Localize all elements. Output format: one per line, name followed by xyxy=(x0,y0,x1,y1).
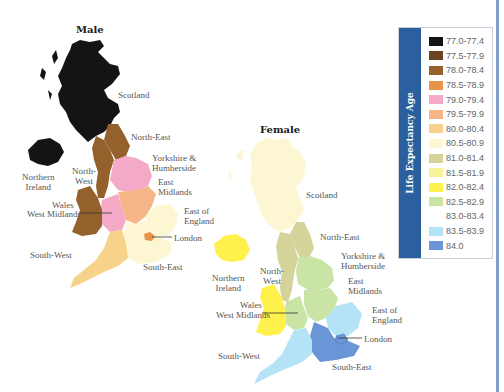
legend-item: 81.0-81.4 xyxy=(429,151,484,166)
legend-label: 83.5-83.9 xyxy=(446,226,484,236)
legend-item: 79.5-79.9 xyxy=(429,107,484,122)
female-label-east-of-england: East of England xyxy=(372,305,402,325)
legend-label: 77.5-77.9 xyxy=(446,51,484,61)
legend-label: 80.0-80.4 xyxy=(446,124,484,134)
female-label-west-midlands: West Midlands xyxy=(216,310,270,320)
legend-swatch xyxy=(429,197,443,206)
legend-label: 82.5-82.9 xyxy=(446,197,484,207)
legend-label: 77.0-77.4 xyxy=(446,36,484,46)
legend-swatch xyxy=(429,241,443,250)
female-label-south-east: South-East xyxy=(332,362,372,372)
legend-title-bar: Life Expectancy Age xyxy=(399,28,421,258)
female-label-scotland: Scotland xyxy=(306,190,338,200)
legend-swatch xyxy=(429,51,443,60)
legend-item: 84.0 xyxy=(429,238,484,253)
legend-label: 81.5-81.9 xyxy=(446,168,484,178)
female-region-yorkshire[interactable] xyxy=(296,256,334,290)
female-label-wales: Wales xyxy=(240,300,262,310)
legend-label: 79.0-79.4 xyxy=(446,95,484,105)
legend-item: 77.0-77.4 xyxy=(429,34,484,49)
legend-swatch xyxy=(429,110,443,119)
page-edge-rule xyxy=(496,0,499,392)
legend-item: 79.0-79.4 xyxy=(429,92,484,107)
legend-item: 83.0-83.4 xyxy=(429,209,484,224)
legend-swatch xyxy=(429,139,443,148)
female-label-london: London xyxy=(364,334,392,344)
legend-item: 83.5-83.9 xyxy=(429,224,484,239)
female-label-yorkshire: Yorkshire & Humberside xyxy=(341,251,385,271)
legend-item: 82.0-82.4 xyxy=(429,180,484,195)
legend-swatch xyxy=(429,227,443,236)
legend-swatch xyxy=(429,124,443,133)
female-label-north-east: North-East xyxy=(320,232,360,242)
legend-swatch xyxy=(429,95,443,104)
legend-item: 80.0-80.4 xyxy=(429,122,484,137)
legend-item: 82.5-82.9 xyxy=(429,195,484,210)
legend-label: 78.5-78.9 xyxy=(446,80,484,90)
legend-item: 81.5-81.9 xyxy=(429,165,484,180)
legend-label: 81.0-81.4 xyxy=(446,153,484,163)
legend-swatch xyxy=(429,81,443,90)
female-label-east-midlands: East Midlands xyxy=(348,276,382,296)
legend-label: 83.0-83.4 xyxy=(446,211,484,221)
legend-swatch xyxy=(429,183,443,192)
legend-item: 78.0-78.4 xyxy=(429,63,484,78)
legend-swatch xyxy=(429,154,443,163)
female-region-south-west[interactable] xyxy=(254,328,312,384)
legend-swatch xyxy=(429,168,443,177)
legend-title: Life Expectancy Age xyxy=(405,92,415,194)
legend-label: 79.5-79.9 xyxy=(446,109,484,119)
female-label-south-west: South-West xyxy=(218,351,260,361)
female-label-north-west: North- West xyxy=(260,266,284,286)
legend-label: 78.0-78.4 xyxy=(446,65,484,75)
legend-swatch xyxy=(429,37,443,46)
legend-item: 77.5-77.9 xyxy=(429,49,484,64)
legend-label: 82.0-82.4 xyxy=(446,182,484,192)
female-label-northern-ireland: Northern Ireland xyxy=(212,273,245,293)
legend: Life Expectancy Age 77.0-77.477.5-77.978… xyxy=(398,27,493,259)
legend-item: 78.5-78.9 xyxy=(429,78,484,93)
legend-swatch xyxy=(429,66,443,75)
legend-swatch xyxy=(429,212,443,221)
legend-label: 80.5-80.9 xyxy=(446,138,484,148)
legend-item: 80.5-80.9 xyxy=(429,136,484,151)
legend-items: 77.0-77.477.5-77.978.0-78.478.5-78.979.0… xyxy=(429,34,484,253)
female-region-scotland[interactable] xyxy=(228,138,306,232)
female-region-northern-ireland[interactable] xyxy=(214,234,250,262)
legend-label: 84.0 xyxy=(446,241,464,251)
